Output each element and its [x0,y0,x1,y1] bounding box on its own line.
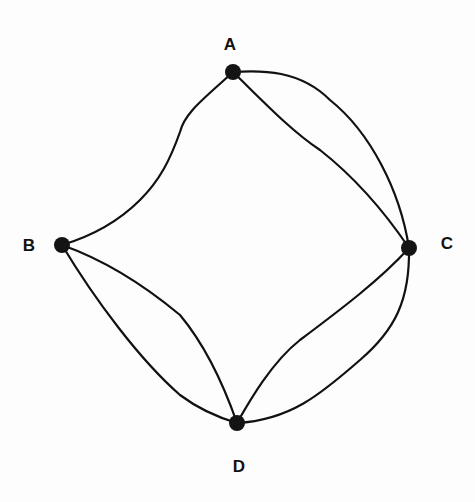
node-a-dot [225,64,241,80]
node-a: A [224,35,241,80]
node-d-label: D [233,457,245,476]
node-a-label: A [224,35,236,54]
node-b-dot [54,237,70,253]
edges-group [62,71,409,423]
node-c: C [401,234,453,256]
node-d-dot [229,415,245,431]
edge-a-c-inner [233,72,409,248]
node-b: B [23,236,70,255]
node-c-dot [401,240,417,256]
graph-diagram: A B C D [0,0,475,502]
edge-a-b [62,72,233,245]
node-b-label: B [23,236,35,255]
node-c-label: C [441,234,453,253]
edge-b-d-lower [62,245,237,423]
edge-b-d-upper [62,245,237,423]
node-d: D [229,415,245,476]
